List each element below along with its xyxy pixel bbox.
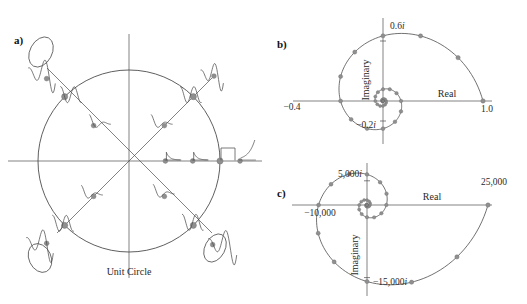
panel-c-layer-sample-marker <box>385 203 389 207</box>
panel-b-layer-sample-marker <box>353 50 357 54</box>
panel-b-layer-sample-marker <box>456 55 460 59</box>
panel-c-imag-axis-label: Imaginary <box>349 234 360 275</box>
pole-marker-upper-right-diagonal-1 <box>190 94 196 100</box>
panel-c-layer-sample-marker <box>316 231 320 235</box>
panel-c-layer-spiral-curve <box>317 173 488 285</box>
impulse-response-sketch <box>29 60 56 93</box>
panel-c-layer-sample-marker <box>372 216 375 219</box>
panel-c-layer-sample-marker <box>365 279 369 283</box>
panel-b: RealImaginary0.6i−0.2i−0.41.0 <box>283 18 493 144</box>
panel-b-layer-sample-marker <box>374 95 377 98</box>
pole-marker-positive-real-axis-1 <box>190 159 195 164</box>
panel-c-real-axis-label: Real <box>423 191 442 202</box>
impulse-curve <box>221 148 235 160</box>
impulse-curve <box>180 87 201 103</box>
panel-c-layer-sample-marker <box>317 203 321 207</box>
pole-marker-positive-real-axis-0 <box>163 159 168 164</box>
panel-c-layer-sample-marker <box>365 173 369 177</box>
panel-b-layer-sample-marker <box>382 100 384 102</box>
panel-b-layer-sample-marker <box>381 127 385 131</box>
pole-marker-upper-right-diagonal-2 <box>212 74 217 79</box>
impulse-response-sketch <box>164 153 181 160</box>
panel-b-layer-sample-marker <box>399 110 403 114</box>
impulse-curve <box>166 153 180 160</box>
impulse-response-sketch <box>53 215 74 231</box>
panel-b-layer-sample-marker <box>381 88 384 91</box>
panel-c-layer-sample-marker <box>360 212 363 215</box>
panel-b-layer-sample-marker <box>418 34 422 38</box>
panel-c-layer-sample-marker <box>409 280 413 284</box>
panel-b-tick-label-neg-imag: −0.2i <box>356 120 376 130</box>
panel-c-layer-sample-marker <box>365 216 368 219</box>
panel-c: RealImaginary5,000i−15,000i−10,00025,000 <box>292 163 507 296</box>
panel-b-layer-sample-marker <box>393 120 397 124</box>
growing-envelope-upper-left <box>24 33 58 72</box>
impulse-response-sketch <box>180 87 201 103</box>
panel-c-layer-sample-marker <box>378 180 382 184</box>
figure-canvas: RealImaginary0.6i−0.2i−0.41.0 RealImagin… <box>0 0 527 304</box>
panel-c-tick-label-neg-real: −10,000 <box>304 208 336 218</box>
panel-b-layer-sample-marker <box>395 91 398 94</box>
panel-a-letter: a) <box>14 34 24 47</box>
panel-b-real-axis-label: Real <box>438 88 457 99</box>
panel-b-layer-sample-marker <box>379 104 382 107</box>
panel-b-layer-sample-marker <box>481 99 485 103</box>
growing-envelope-lower-left <box>24 240 57 276</box>
panel-c-layer-sample-marker <box>358 203 361 206</box>
panel-c-layer-sample-marker <box>358 208 361 211</box>
panel-b-tick-label-neg-real: −0.4 <box>283 102 300 112</box>
panel-b-tick-label-pos-real: 1.0 <box>481 104 493 114</box>
panel-c-layer-sample-marker <box>486 203 490 207</box>
panel-c-layer-sample-marker <box>380 212 383 215</box>
pole-marker-upper-right-diagonal-0 <box>162 123 167 128</box>
panel-c-tick-label-neg-imag: −15,000i <box>373 277 407 287</box>
impulse-response-sketch <box>221 148 235 160</box>
panel-c-layer-sample-marker <box>360 200 363 203</box>
panel-b-layer-sample-marker <box>374 99 377 102</box>
impulse-curve <box>53 215 74 231</box>
panel-b-layer-sample-marker <box>339 75 343 79</box>
impulse-curve <box>241 140 255 157</box>
impulse-response-sketch <box>239 140 256 160</box>
panel-c-layer-sample-marker <box>366 204 368 206</box>
figure-root: RealImaginary0.6i−0.2i−0.41.0 RealImagin… <box>0 0 527 304</box>
panel-c-tick-label-pos-real: 25,000 <box>481 177 507 187</box>
unit-circle-label: Unit Circle <box>107 266 152 277</box>
panel-b-layer-sample-marker <box>388 88 391 91</box>
panel-b-imag-axis-label: Imaginary <box>360 59 371 100</box>
impulse-curve <box>29 60 56 93</box>
pole-marker-positive-real-axis-2 <box>217 158 223 164</box>
panel-c-layer-sample-marker <box>363 199 366 202</box>
panel-b-layer-sample-marker <box>381 34 385 38</box>
panel-c-tick-label-pos-imag: 5,000i <box>338 169 362 179</box>
impulse-response-sketch <box>61 87 82 103</box>
panel-a <box>8 33 262 278</box>
panel-b-letter: b) <box>277 38 287 51</box>
panel-b-layer-sample-marker <box>376 103 379 106</box>
panel-b-layer-sample-marker <box>399 99 403 103</box>
impulse-response-sketch <box>192 153 209 160</box>
impulse-curve <box>61 87 82 103</box>
panel-c-letter: c) <box>277 187 286 200</box>
panel-b-tick-label-pos-imag: 0.6i <box>390 21 405 31</box>
pole-marker-positive-real-axis-3 <box>238 159 243 164</box>
panel-c-layer-sample-marker <box>455 255 459 259</box>
panel-c-layer-sample-marker <box>329 182 333 186</box>
panel-b-layer-sample-marker <box>349 117 353 121</box>
panel-c-layer-sample-marker <box>332 260 336 264</box>
panel-b-layer-sample-marker <box>376 91 379 94</box>
pole-marker-upper-left-diagonal-2 <box>44 76 49 81</box>
impulse-curve <box>194 153 208 160</box>
panel-b-layer-sample-marker <box>339 99 343 103</box>
panel-c-layer-sample-marker <box>385 192 389 196</box>
